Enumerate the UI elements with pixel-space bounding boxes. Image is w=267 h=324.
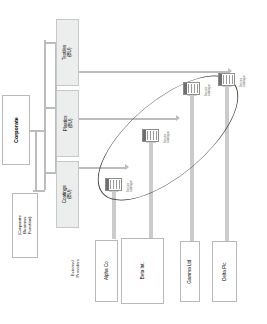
service-catalogue-label-alpha: Service catalogue bbox=[127, 180, 133, 192]
cat-alpha-line2: catalogue bbox=[130, 180, 133, 192]
business-unit-plastics[interactable]: Plastics (BU) bbox=[56, 90, 79, 157]
business-unit-textiles-label: Textiles (BU) bbox=[62, 45, 73, 60]
bu-coatings-line2: (BU) bbox=[67, 190, 72, 199]
doc-lines-icon bbox=[147, 131, 157, 140]
service-catalogue-icon-beta[interactable] bbox=[142, 129, 159, 142]
doc-lines-icon bbox=[188, 84, 198, 93]
service-catalogue-icon-gamma[interactable] bbox=[183, 82, 200, 95]
corporate-function-label: (Corporate Business Function) bbox=[18, 213, 32, 237]
corporate-label: Corporate bbox=[13, 117, 19, 143]
connector-corporate-spine bbox=[44, 40, 46, 190]
bu-plastics-line2: (BU) bbox=[67, 119, 72, 128]
corporate-function-box[interactable]: (Corporate Business Function) bbox=[12, 193, 38, 258]
service-catalogue-label-delta: Service catalogue bbox=[240, 75, 246, 87]
connector-textiles-to-catalogue bbox=[79, 71, 229, 73]
doc-lines-icon bbox=[110, 180, 120, 189]
external-providers-heading: External Providers bbox=[62, 248, 88, 288]
provider-box-delta[interactable]: Delta Plc bbox=[212, 241, 237, 302]
provider-box-beta[interactable]: Beta Int. bbox=[121, 238, 164, 304]
corporate-box[interactable]: Corporate bbox=[2, 95, 30, 165]
provider-label-gamma: Gamma Ltd bbox=[187, 260, 192, 284]
cat-beta-line2: catalogue bbox=[167, 131, 170, 143]
connector-function-stub-h bbox=[33, 190, 45, 192]
connector-corporate-stub bbox=[30, 130, 45, 132]
provider-box-gamma[interactable]: Gamma Ltd bbox=[180, 241, 200, 302]
doc-spine-icon bbox=[184, 83, 187, 94]
diagram-canvas: Corporate (Corporate Business Function) … bbox=[0, 0, 267, 324]
external-providers-line2: Providers bbox=[75, 259, 80, 278]
doc-spine-icon bbox=[106, 179, 109, 190]
connector-function-stub bbox=[35, 130, 37, 192]
service-catalogue-icon-alpha[interactable] bbox=[105, 178, 122, 191]
bu-textiles-line1: Textiles bbox=[62, 45, 67, 60]
doc-spine-icon bbox=[219, 74, 222, 85]
external-providers-line1: External bbox=[70, 260, 75, 276]
cat-delta-line2: catalogue bbox=[243, 75, 246, 87]
doc-spine-icon bbox=[143, 130, 146, 141]
doc-lines-icon bbox=[223, 75, 233, 84]
provider-box-alpha[interactable]: Alpha Co bbox=[95, 240, 118, 302]
provider-label-delta: Delta Plc bbox=[222, 262, 227, 280]
service-catalogue-icon-delta[interactable] bbox=[218, 73, 235, 86]
business-unit-coatings[interactable]: Coatings (BU) bbox=[56, 161, 79, 228]
business-unit-plastics-label: Plastics (BU) bbox=[62, 116, 73, 132]
bu-plastics-line1: Plastics bbox=[62, 116, 67, 132]
bu-textiles-line2: (BU) bbox=[67, 48, 72, 57]
business-unit-textiles[interactable]: Textiles (BU) bbox=[56, 19, 79, 86]
cat-gamma-line2: catalogue bbox=[208, 84, 211, 96]
provider-label-alpha: Alpha Co bbox=[104, 262, 109, 281]
service-catalogue-label-beta: Service catalogue bbox=[164, 131, 170, 143]
provider-label-beta: Beta Int. bbox=[140, 262, 145, 279]
service-catalogue-label-gamma: Service catalogue bbox=[205, 84, 211, 96]
business-unit-coatings-label: Coatings (BU) bbox=[62, 185, 73, 203]
